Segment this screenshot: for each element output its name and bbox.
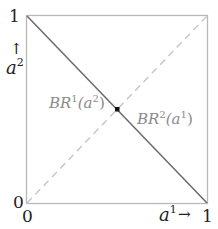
x-axis-arrow: →	[178, 205, 191, 223]
x-tick-1: 1	[202, 206, 213, 226]
equilibrium-dot	[115, 107, 120, 112]
y-axis-label: a2	[6, 56, 24, 78]
br2-label: BR2(a1)	[136, 109, 193, 128]
x-axis-label: a1	[159, 203, 177, 225]
y-tick-1: 1	[9, 6, 20, 26]
br1-label: BR1(a2)	[48, 93, 105, 112]
best-response-diagram: 1 ↑ a2 0 0 a1 → 1 BR1(a2) BR2(a1)	[0, 0, 218, 229]
x-tick-0: 0	[22, 206, 33, 226]
